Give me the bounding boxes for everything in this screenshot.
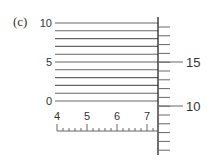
scale-graphic: 105015104567	[0, 0, 212, 163]
bottom-scale-label: 6	[114, 110, 120, 122]
left-scale-label: 0	[46, 95, 52, 107]
bottom-scale-label: 4	[54, 110, 60, 122]
right-scale-label: 10	[186, 99, 200, 114]
scale-diagram: (c) 105015104567	[0, 0, 212, 163]
right-scale-label: 15	[186, 55, 200, 70]
bottom-scale-label: 7	[144, 110, 150, 122]
left-scale-label: 10	[40, 17, 52, 29]
bottom-scale-label: 5	[84, 110, 90, 122]
left-scale-label: 5	[46, 56, 52, 68]
panel-label: (c)	[13, 14, 27, 30]
